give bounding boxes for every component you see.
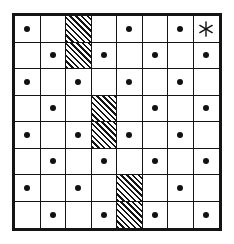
grid-cell-dot[interactable] [143,149,169,176]
grid-cell-dot[interactable] [194,96,220,123]
grid-cell-dot[interactable] [194,149,220,176]
grid-cell-empty[interactable] [117,43,143,70]
grid-cell-dot[interactable] [41,149,67,176]
grid-cell-empty[interactable] [66,202,92,229]
grid-cell-empty[interactable] [92,16,118,43]
grid-cell-empty[interactable] [168,202,194,229]
grid-cell-star[interactable] [194,16,220,43]
grid-cell-dot[interactable] [92,202,118,229]
grid-cell-dot[interactable] [15,16,41,43]
grid-cell-hatched[interactable] [66,16,92,43]
grid-cell-empty[interactable] [15,96,41,123]
grid-cell-dot[interactable] [66,69,92,96]
puzzle-grid [15,16,219,228]
dot-marker-icon [177,132,183,138]
dot-marker-icon [203,105,209,111]
dot-marker-icon [152,52,158,58]
grid-cell-empty[interactable] [143,122,169,149]
figure-canvas [0,0,234,244]
grid-cell-empty[interactable] [41,122,67,149]
grid-cell-empty[interactable] [41,175,67,202]
dot-marker-icon [24,79,30,85]
grid-cell-dot[interactable] [117,122,143,149]
grid-cell-dot[interactable] [117,16,143,43]
dot-marker-icon [101,158,107,164]
grid-cell-empty[interactable] [143,16,169,43]
dot-marker-icon [152,212,158,218]
grid-cell-dot[interactable] [168,69,194,96]
dot-marker-icon [203,212,209,218]
grid-cell-dot[interactable] [41,43,67,70]
dot-marker-icon [203,52,209,58]
grid-cell-empty[interactable] [66,149,92,176]
dot-marker-icon [126,79,132,85]
grid-cell-dot[interactable] [66,175,92,202]
dot-marker-icon [75,79,81,85]
grid-cell-dot[interactable] [15,122,41,149]
dot-marker-icon [126,26,132,32]
grid-cell-hatched[interactable] [66,43,92,70]
dot-marker-icon [101,52,107,58]
grid-cell-dot[interactable] [15,175,41,202]
grid-cell-empty[interactable] [117,149,143,176]
dot-marker-icon [126,132,132,138]
dot-marker-icon [152,158,158,164]
dot-marker-icon [24,185,30,191]
grid-cell-empty[interactable] [66,96,92,123]
grid-cell-hatched[interactable] [92,122,118,149]
grid-cell-dot[interactable] [143,202,169,229]
grid-cell-hatched[interactable] [117,175,143,202]
grid-cell-empty[interactable] [41,69,67,96]
grid-cell-empty[interactable] [117,96,143,123]
grid-cell-dot[interactable] [168,175,194,202]
grid-outer-border [12,13,222,231]
grid-cell-empty[interactable] [168,96,194,123]
grid-cell-empty[interactable] [194,175,220,202]
grid-cell-dot[interactable] [92,43,118,70]
grid-cell-dot[interactable] [143,43,169,70]
dot-marker-icon [50,52,56,58]
grid-cell-empty[interactable] [194,69,220,96]
dot-marker-icon [177,26,183,32]
grid-cell-hatched[interactable] [117,202,143,229]
dot-marker-icon [75,185,81,191]
grid-cell-empty[interactable] [41,16,67,43]
dot-marker-icon [101,212,107,218]
grid-cell-empty[interactable] [15,43,41,70]
grid-cell-dot[interactable] [143,96,169,123]
dot-marker-icon [24,26,30,32]
dot-marker-icon [177,185,183,191]
grid-cell-empty[interactable] [15,202,41,229]
asterisk-star-icon [197,20,215,38]
dot-marker-icon [75,132,81,138]
dot-marker-icon [203,158,209,164]
dot-marker-icon [152,105,158,111]
grid-cell-empty[interactable] [15,149,41,176]
dot-marker-icon [50,105,56,111]
grid-cell-dot[interactable] [168,122,194,149]
grid-cell-dot[interactable] [15,69,41,96]
grid-cell-hatched[interactable] [92,96,118,123]
grid-cell-empty[interactable] [194,122,220,149]
dot-marker-icon [24,132,30,138]
grid-cell-empty[interactable] [143,69,169,96]
grid-cell-empty[interactable] [143,175,169,202]
dot-marker-icon [50,212,56,218]
grid-cell-empty[interactable] [92,69,118,96]
grid-cell-empty[interactable] [168,149,194,176]
dot-marker-icon [177,79,183,85]
grid-cell-dot[interactable] [41,202,67,229]
grid-cell-dot[interactable] [41,96,67,123]
grid-cell-dot[interactable] [168,16,194,43]
grid-cell-dot[interactable] [92,149,118,176]
grid-cell-dot[interactable] [194,43,220,70]
grid-cell-dot[interactable] [117,69,143,96]
grid-cell-empty[interactable] [168,43,194,70]
grid-cell-dot[interactable] [194,202,220,229]
dot-marker-icon [50,158,56,164]
grid-cell-empty[interactable] [92,175,118,202]
grid-cell-dot[interactable] [66,122,92,149]
